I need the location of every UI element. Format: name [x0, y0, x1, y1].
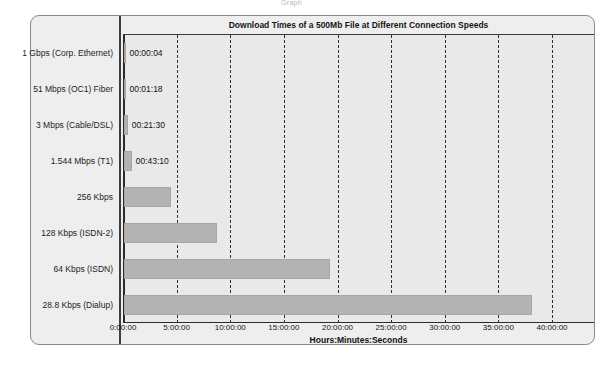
- category-label: 1 Gbps (Corp. Ethernet): [22, 48, 113, 58]
- gridline: [445, 35, 446, 323]
- x-tick-label: 10:00:00: [215, 323, 246, 332]
- gridline: [177, 35, 178, 323]
- gridline: [498, 35, 499, 323]
- bar-value-label: 00:21:30: [132, 115, 165, 135]
- x-axis-tick-labels: 0:00:005:00:0010:00:0015:00:0020:00:0025…: [123, 323, 594, 335]
- x-tick-label: 20:00:00: [322, 323, 353, 332]
- screenshot-stage: Graph 1 Gbps (Corp. Ethernet)51 Mbps (OC…: [0, 0, 607, 377]
- x-tick-label: 40:00:00: [536, 323, 567, 332]
- category-label: 64 Kbps (ISDN): [53, 264, 113, 274]
- bar: [124, 43, 126, 63]
- category-label: 128 Kbps (ISDN-2): [41, 228, 113, 238]
- bar: [124, 295, 532, 315]
- x-tick-label: 5:00:00: [163, 323, 190, 332]
- category-label-column: 1 Gbps (Corp. Ethernet)51 Mbps (OC1) Fib…: [31, 16, 121, 344]
- bar: [124, 223, 217, 243]
- bar-value-label: 00:00:04: [130, 43, 163, 63]
- chart-panel: 1 Gbps (Corp. Ethernet)51 Mbps (OC1) Fib…: [30, 15, 595, 345]
- gridline: [284, 35, 285, 323]
- category-label: 1.544 Mbps (T1): [51, 156, 113, 166]
- x-tick-label: 25:00:00: [376, 323, 407, 332]
- bar: [124, 115, 128, 135]
- category-label: 256 Kbps: [77, 192, 113, 202]
- x-tick-label: 30:00:00: [429, 323, 460, 332]
- chart-title: Download Times of a 500Mb File at Differ…: [123, 16, 594, 35]
- clipped-top-text: Graph: [281, 0, 341, 8]
- bar: [124, 151, 132, 171]
- x-axis-title: Hours:Minutes:Seconds: [123, 335, 594, 345]
- bar: [124, 259, 330, 279]
- gridline: [230, 35, 231, 323]
- bar-value-label: 00:43:10: [136, 151, 169, 171]
- bar: [124, 79, 126, 99]
- bar: [124, 187, 171, 207]
- category-label: 28.8 Kbps (Dialup): [43, 300, 113, 310]
- gridline: [391, 35, 392, 323]
- category-label: 3 Mbps (Cable/DSL): [36, 120, 113, 130]
- category-axis-divider: [119, 16, 121, 344]
- x-tick-label: 35:00:00: [483, 323, 514, 332]
- x-tick-label: 0:00:00: [110, 323, 137, 332]
- gridline: [338, 35, 339, 323]
- plot-area: 00:00:0400:01:1800:21:3000:43:10: [123, 35, 594, 323]
- chart-region: Download Times of a 500Mb File at Differ…: [123, 16, 594, 344]
- x-tick-label: 15:00:00: [268, 323, 299, 332]
- gridline: [552, 35, 553, 323]
- bar-value-label: 00:01:18: [130, 79, 163, 99]
- category-label: 51 Mbps (OC1) Fiber: [33, 84, 113, 94]
